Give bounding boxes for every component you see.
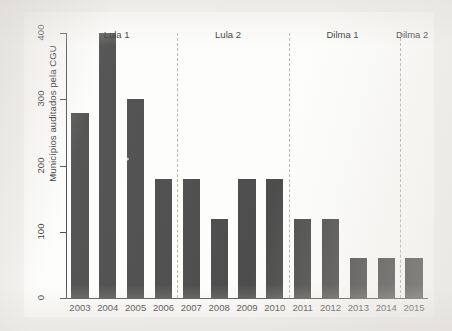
bar (350, 258, 367, 298)
x-axis-tick-label: 2003 (66, 302, 94, 313)
plot-area: Municípios auditados pela CGU 0100200300… (24, 12, 434, 317)
bar (127, 99, 144, 298)
x-axis-tick-label: 2011 (289, 302, 317, 313)
bar (322, 219, 339, 299)
y-axis-tick-label: 100 (35, 213, 46, 249)
bar (405, 258, 422, 298)
y-axis-tick (60, 33, 66, 34)
y-axis-tick-label: 300 (35, 81, 46, 117)
y-axis-line (66, 33, 67, 298)
x-axis-tick-label: 2007 (177, 302, 205, 313)
y-axis-tick-label: 400 (35, 15, 46, 51)
bar (99, 33, 116, 298)
bar (238, 179, 255, 298)
period-annotation-label: Dilma 2 (396, 29, 428, 40)
period-annotation-label: Lula 2 (215, 29, 241, 40)
period-annotation-label: Lula 1 (104, 29, 130, 40)
period-divider (177, 33, 178, 298)
chart-screenshot: Municípios auditados pela CGU 0100200300… (0, 0, 452, 331)
x-axis-tick-label: 2006 (150, 302, 178, 313)
x-axis-tick-label: 2012 (317, 302, 345, 313)
y-axis-tick-label: 0 (35, 280, 46, 316)
bar (71, 113, 88, 299)
y-axis-title: Municípios auditados pela CGU (47, 14, 58, 214)
y-axis-tick (60, 232, 66, 233)
bar (266, 179, 283, 298)
bar (155, 179, 172, 298)
x-axis-tick-label: 2005 (122, 302, 150, 313)
y-axis-tick-label: 200 (35, 147, 46, 183)
bar (294, 219, 311, 299)
x-axis-tick-label: 2013 (344, 302, 372, 313)
period-divider (289, 33, 290, 298)
bar (183, 179, 200, 298)
x-axis-tick-label: 2008 (205, 302, 233, 313)
bar (378, 258, 395, 298)
x-axis-tick-label: 2009 (233, 302, 261, 313)
y-axis-tick (60, 99, 66, 100)
bar (211, 219, 228, 299)
x-axis-tick-label: 2004 (94, 302, 122, 313)
x-axis-tick-label: 2010 (261, 302, 289, 313)
period-annotation-label: Dilma 1 (326, 29, 358, 40)
y-axis-tick (60, 298, 66, 299)
x-axis-line (66, 298, 428, 299)
x-axis-tick-label: 2015 (400, 302, 428, 313)
y-axis-tick (60, 166, 66, 167)
x-axis-tick-label: 2014 (372, 302, 400, 313)
period-divider (400, 33, 401, 298)
